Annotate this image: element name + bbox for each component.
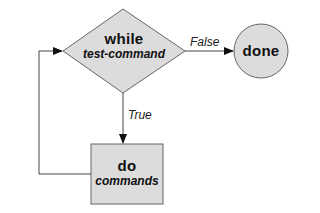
do-keyword-label: do	[118, 157, 137, 174]
commands-label: commands	[95, 174, 158, 188]
true-edge-label: True	[128, 108, 152, 122]
loop-back-arrow	[39, 51, 91, 174]
while-keyword-label: while	[104, 30, 143, 47]
done-label: done	[242, 42, 279, 59]
test-command-label: test-command	[83, 47, 165, 61]
false-edge-label: False	[190, 35, 219, 49]
